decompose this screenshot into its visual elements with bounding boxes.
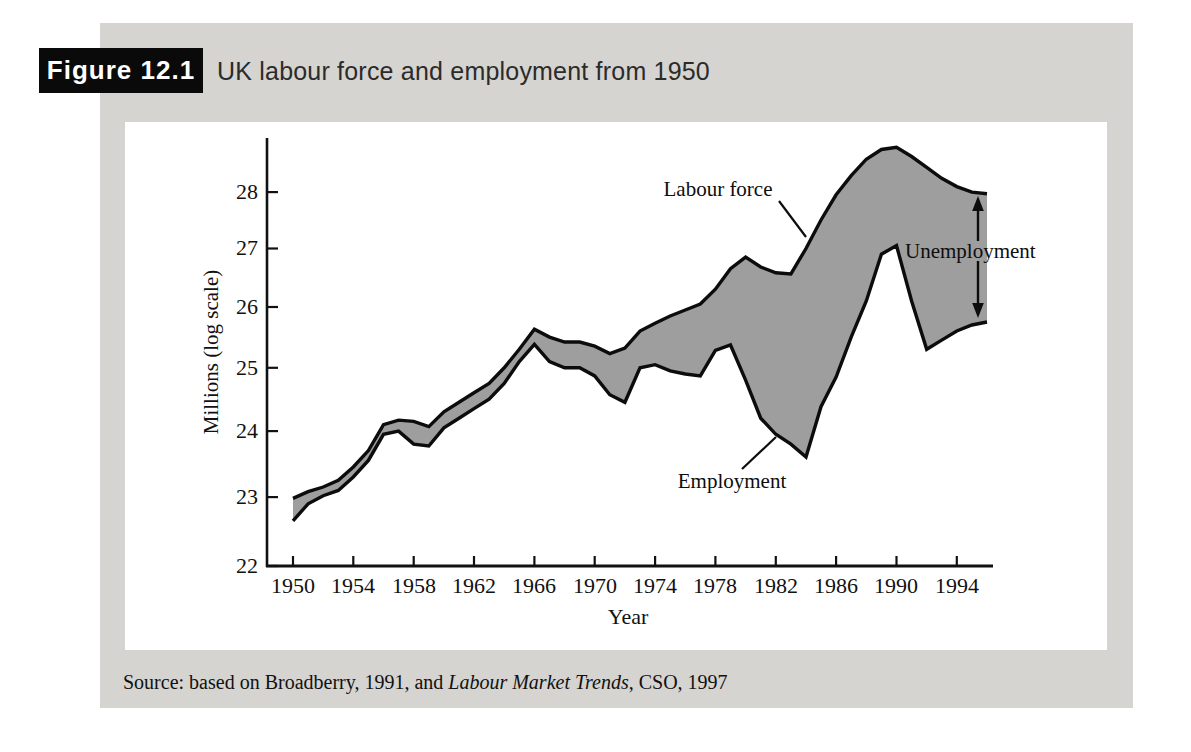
y-tick-label: 25 <box>214 356 258 380</box>
source-italic-title: Labour Market Trends <box>448 671 628 693</box>
labour-force-leader-line <box>779 201 806 237</box>
y-tick-label: 27 <box>214 236 258 260</box>
x-tick-marks <box>293 556 957 566</box>
x-axis-title: Year <box>588 604 668 630</box>
x-tick-label: 1982 <box>744 574 808 598</box>
y-tick-label: 23 <box>214 485 258 509</box>
x-tick-label: 1978 <box>683 574 747 598</box>
x-tick-label: 1994 <box>925 574 989 598</box>
employment-line <box>293 246 987 521</box>
source-suffix: , CSO, 1997 <box>629 671 728 693</box>
x-tick-label: 1958 <box>382 574 446 598</box>
x-tick-label: 1990 <box>864 574 928 598</box>
unemployment-label: Unemployment <box>905 239 1036 264</box>
x-tick-label: 1954 <box>321 574 385 598</box>
page: { "figure": { "label": "Figure 12.1", "t… <box>0 0 1191 752</box>
y-tick-label: 24 <box>214 419 258 443</box>
chart-canvas <box>0 0 1191 752</box>
x-tick-label: 1974 <box>623 574 687 598</box>
y-tick-marks <box>267 192 278 566</box>
unemployment-band <box>293 147 987 521</box>
x-tick-label: 1962 <box>442 574 506 598</box>
x-tick-label: 1970 <box>563 574 627 598</box>
x-tick-label: 1950 <box>261 574 325 598</box>
y-tick-label: 22 <box>214 554 258 578</box>
x-tick-label: 1986 <box>804 574 868 598</box>
source-text: Source: based on Broadberry, 1991, and <box>123 671 448 693</box>
y-tick-label: 26 <box>214 295 258 319</box>
employment-leader-line <box>742 437 776 469</box>
y-tick-label: 28 <box>214 180 258 204</box>
employment-label: Employment <box>662 469 802 494</box>
labour-force-label: Labour force <box>653 177 783 202</box>
x-tick-label: 1966 <box>502 574 566 598</box>
source-note: Source: based on Broadberry, 1991, and L… <box>123 671 728 694</box>
